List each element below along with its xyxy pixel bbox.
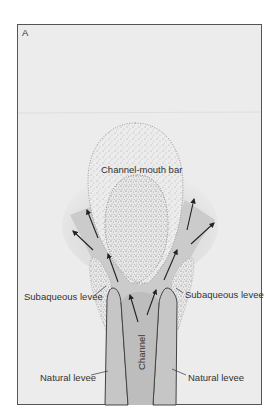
label-natural-levee-right: Natural levee: [188, 372, 244, 383]
label-subaqueous-levee-right: Subaqueous levee: [185, 289, 264, 300]
label-channel: Channel: [136, 335, 147, 370]
label-subaqueous-levee-left: Subaqueous levee: [24, 291, 103, 302]
panel-label: A: [22, 27, 29, 38]
delta-diagram: A Channel-mouth bar Subaqueous levee Sub…: [0, 0, 273, 420]
label-channel-mouth-bar: Channel-mouth bar: [101, 164, 182, 175]
label-natural-levee-left: Natural levee: [40, 372, 96, 383]
